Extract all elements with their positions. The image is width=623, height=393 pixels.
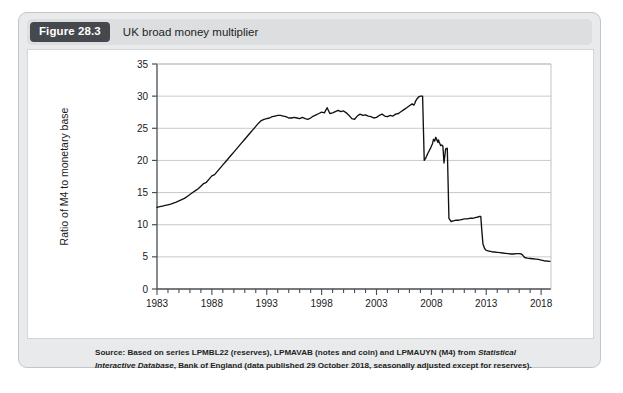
x-tick-label: 1998 [310, 298, 333, 309]
y-tick-label: 5 [142, 251, 148, 262]
line-chart: 0510152025303519831988199319982003200820… [28, 50, 593, 338]
figure-header: Figure 28.3 UK broad money multiplier [27, 19, 592, 45]
y-tick-label: 35 [137, 59, 149, 70]
figure-source-note: Source: Based on series LPMBL22 (reserve… [95, 347, 535, 372]
source-suffix-text: , Bank of England (data published 29 Oct… [174, 361, 532, 370]
x-tick-label: 2008 [420, 298, 443, 309]
y-tick-label: 25 [137, 123, 149, 134]
x-tick-label: 1993 [256, 298, 279, 309]
figure-title: UK broad money multiplier [123, 26, 259, 38]
figure-number-badge: Figure 28.3 [30, 22, 110, 42]
y-tick-label: 30 [137, 91, 149, 102]
x-tick-label: 2003 [365, 298, 388, 309]
chart-panel: 0510152025303519831988199319982003200820… [27, 49, 594, 339]
x-tick-label: 2013 [475, 298, 498, 309]
source-prefix-text: Source: Based on series LPMBL22 (reserve… [95, 348, 478, 357]
y-tick-label: 0 [142, 284, 148, 295]
x-tick-label: 1983 [146, 298, 169, 309]
figure-card: Figure 28.3 UK broad money multiplier 05… [18, 12, 601, 368]
y-tick-label: 15 [137, 187, 149, 198]
y-tick-label: 10 [137, 219, 149, 230]
x-tick-label: 1988 [201, 298, 224, 309]
y-axis-title: Ratio of M4 to monetary base [58, 107, 70, 245]
y-tick-label: 20 [137, 155, 149, 166]
data-series-line [157, 96, 550, 261]
x-tick-label: 2018 [530, 298, 553, 309]
